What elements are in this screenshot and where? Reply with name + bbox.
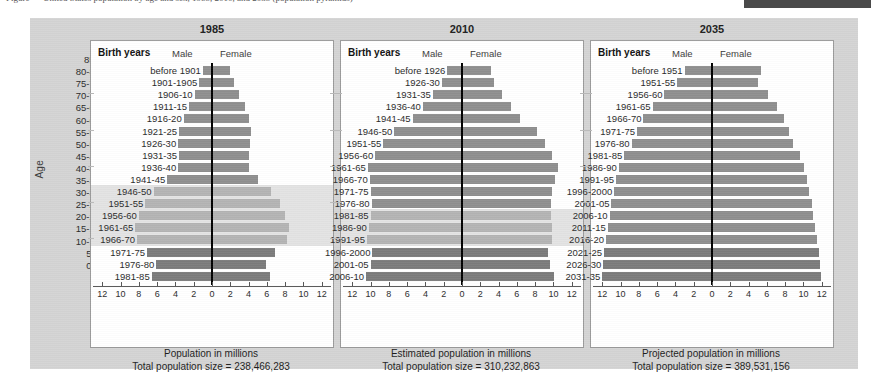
birth-years-header: Birth years: [598, 47, 650, 58]
bar-female: [212, 114, 249, 123]
bar-female: [212, 127, 251, 136]
legend-male: Male: [672, 48, 693, 59]
birth-year-label: 2001-05: [334, 259, 369, 271]
bar-female: [212, 151, 249, 160]
bar-male: [604, 248, 712, 257]
bar-female: [212, 187, 271, 196]
birth-year-label: 1981-85: [334, 210, 369, 222]
bar-male: [145, 199, 212, 208]
bar-male: [366, 272, 462, 281]
x-tick-label: 2: [222, 289, 238, 299]
bar-female: [712, 211, 813, 220]
birth-year-label: 1941-45: [376, 113, 411, 125]
birth-year-label: before 1926: [395, 65, 446, 77]
x-tick-label: 6: [399, 289, 415, 299]
gridline: [580, 166, 592, 167]
bar-male: [653, 102, 712, 111]
x-tick: [157, 282, 158, 286]
x-axis-line: [593, 286, 831, 287]
legend-male: Male: [422, 48, 443, 59]
bar-male: [616, 175, 712, 184]
birth-year-label: 1966-70: [100, 234, 135, 246]
birth-year-label: 1991-95: [579, 174, 614, 186]
bar-female: [212, 139, 250, 148]
legend-female: Female: [720, 48, 752, 59]
x-axis-title-2035: Projected population in millions: [590, 348, 832, 359]
gridline: [330, 166, 342, 167]
bar-male: [637, 127, 712, 136]
birth-year-label: 1976-80: [119, 259, 154, 271]
panel-2010: 2010Birth yearsMaleFemalebefore 19261926…: [340, 40, 584, 348]
bar-female: [462, 272, 554, 281]
bar-male: [423, 102, 462, 111]
birth-year-label: 1926-30: [141, 138, 176, 150]
birth-year-label: before 1951: [632, 65, 683, 77]
x-tick-label: 4: [167, 289, 183, 299]
x-tick: [553, 282, 554, 286]
birth-year-label: 1951-55: [347, 138, 382, 150]
birth-year-label: 1986-90: [332, 222, 367, 234]
plot-area-2010: before 19261926-301931-351936-401941-451…: [341, 63, 583, 293]
bar-male: [189, 102, 212, 111]
birth-year-label: 1936-40: [386, 101, 421, 113]
panel-2035: 2035Birth yearsMaleFemalebefore 19511951…: [590, 40, 834, 348]
bar-male: [167, 175, 212, 184]
bar-male: [664, 90, 712, 99]
bar-female: [712, 272, 821, 281]
x-tick-label: 0: [704, 289, 720, 299]
total-population-2010: Total population size = 310,232,863: [340, 361, 582, 372]
bar-female: [462, 66, 491, 75]
x-tick-label: 6: [759, 289, 775, 299]
bar-male: [394, 127, 462, 136]
x-axis-title-1985: Population in millions: [90, 348, 332, 359]
bar-male: [154, 187, 213, 196]
birth-year-label: 1956-60: [102, 210, 137, 222]
top-caption: Figure — United States population by age…: [6, 0, 353, 3]
bar-male: [383, 139, 462, 148]
gridline: [580, 130, 592, 131]
bar-female: [712, 66, 761, 75]
bar-male: [367, 235, 462, 244]
birth-year-label: 2016-20: [569, 234, 604, 246]
x-tick-label: 4: [667, 289, 683, 299]
gridline: [330, 202, 342, 203]
birth-year-label: 1926-30: [405, 77, 440, 89]
birth-year-label: 1946-50: [117, 186, 152, 198]
bar-female: [712, 151, 800, 160]
bar-female: [712, 139, 793, 148]
birth-year-label: 1996-2000: [325, 247, 370, 259]
bar-male: [184, 114, 212, 123]
bar-female: [462, 114, 520, 123]
bar-male: [368, 163, 462, 172]
x-tick: [267, 282, 268, 286]
birth-year-label: 2011-15: [572, 222, 606, 234]
gridline: [330, 93, 342, 94]
legend-female: Female: [470, 48, 502, 59]
bar-female: [712, 235, 817, 244]
gridline: [88, 130, 94, 131]
bar-male: [178, 163, 212, 172]
legend-female: Female: [220, 48, 252, 59]
bar-male: [611, 199, 712, 208]
bar-male: [179, 127, 212, 136]
x-tick: [285, 282, 286, 286]
bar-male: [602, 272, 712, 281]
x-tick-label: 8: [277, 289, 293, 299]
bar-female: [462, 151, 552, 160]
bar-male: [137, 235, 212, 244]
bar-male: [370, 175, 462, 184]
birth-year-label: 1961-65: [616, 101, 651, 113]
x-tick: [803, 282, 804, 286]
x-tick: [303, 282, 304, 286]
bar-female: [462, 175, 555, 184]
bar-female: [212, 223, 289, 232]
birth-year-label: 2001-05: [575, 198, 610, 210]
x-tick-label: 4: [241, 289, 257, 299]
birth-year-label: 2006-10: [329, 271, 364, 283]
x-tick: [194, 282, 195, 286]
bar-female: [212, 199, 280, 208]
birth-year-label: 1936-40: [141, 162, 176, 174]
bar-male: [608, 223, 712, 232]
bar-male: [614, 187, 712, 196]
x-tick-label: 2: [686, 289, 702, 299]
